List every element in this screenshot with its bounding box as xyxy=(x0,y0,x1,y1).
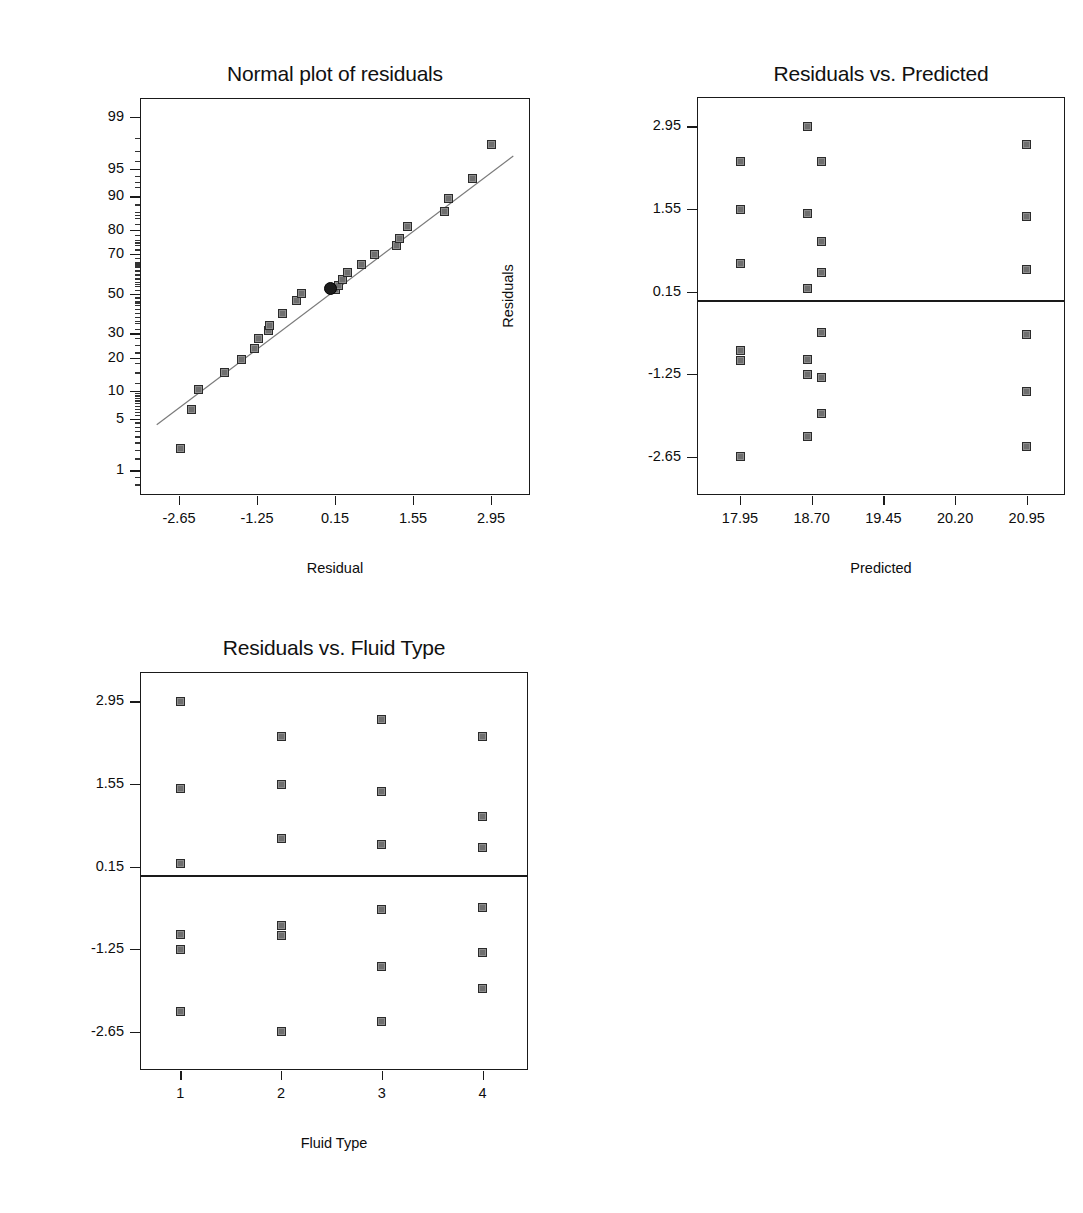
y-minor-tick xyxy=(135,338,140,339)
y-minor-tick xyxy=(135,290,140,291)
y-minor-tick xyxy=(135,431,140,432)
x-axis-title: Residual xyxy=(80,560,590,576)
y-tick xyxy=(130,470,140,471)
y-tick xyxy=(130,294,140,295)
y-minor-tick xyxy=(135,352,140,353)
data-point xyxy=(277,1027,286,1036)
data-point xyxy=(736,356,745,365)
y-minor-tick xyxy=(135,282,140,283)
x-tick xyxy=(883,496,884,505)
y-minor-tick xyxy=(135,286,140,287)
y-tick xyxy=(687,126,697,127)
y-minor-tick xyxy=(135,138,140,139)
data-point xyxy=(444,194,453,203)
data-point xyxy=(377,905,386,914)
data-point xyxy=(817,157,826,166)
y-tick-label: 2.95 xyxy=(589,117,681,133)
y-minor-tick xyxy=(135,442,140,443)
data-point xyxy=(278,309,287,318)
data-point xyxy=(176,1007,185,1016)
y-minor-tick xyxy=(135,450,140,451)
x-tick xyxy=(812,496,813,505)
y-minor-tick xyxy=(135,161,140,162)
data-point xyxy=(817,409,826,418)
data-point xyxy=(478,984,487,993)
y-minor-tick xyxy=(135,305,140,306)
y-minor-tick xyxy=(135,313,140,314)
data-point xyxy=(403,222,412,231)
y-tick-label: 0.15 xyxy=(589,283,681,299)
y-minor-tick xyxy=(135,403,140,404)
y-minor-tick xyxy=(135,218,140,219)
data-point xyxy=(395,234,404,243)
y-minor-tick xyxy=(135,278,140,279)
x-axis-title: Fluid Type xyxy=(80,1135,588,1151)
y-tick xyxy=(130,867,140,868)
plot-frame xyxy=(140,672,528,1070)
y-minor-tick xyxy=(135,266,140,267)
x-tick xyxy=(1027,496,1028,505)
data-point xyxy=(370,250,379,259)
data-point xyxy=(176,697,185,706)
data-point xyxy=(265,321,274,330)
data-point xyxy=(194,385,203,394)
y-tick xyxy=(687,292,697,293)
x-tick-label: 0.15 xyxy=(290,510,380,526)
y-tick xyxy=(130,169,140,170)
y-minor-tick xyxy=(135,427,140,428)
y-minor-tick xyxy=(135,151,140,152)
y-tick xyxy=(130,230,140,231)
x-tick-label: 1 xyxy=(135,1085,225,1101)
data-point xyxy=(176,444,185,453)
data-point xyxy=(478,843,487,852)
y-minor-tick xyxy=(135,212,140,213)
data-point xyxy=(277,732,286,741)
data-point xyxy=(277,931,286,940)
data-point xyxy=(1022,212,1031,221)
y-minor-tick xyxy=(135,262,140,263)
data-point xyxy=(176,930,185,939)
plot-frame xyxy=(140,98,530,495)
y-minor-tick xyxy=(135,395,140,396)
y-minor-tick xyxy=(135,242,140,243)
y-minor-tick xyxy=(135,406,140,407)
data-point xyxy=(736,157,745,166)
data-point xyxy=(817,237,826,246)
y-minor-tick xyxy=(135,258,140,259)
data-point xyxy=(277,834,286,843)
x-tick-label: -2.65 xyxy=(134,510,224,526)
y-tick-label: 99 xyxy=(32,108,124,124)
x-tick-label: 1.55 xyxy=(368,510,458,526)
y-tick-label: 10 xyxy=(32,382,124,398)
data-point xyxy=(176,859,185,868)
x-tick xyxy=(257,496,258,505)
y-axis-title: Residuals xyxy=(500,166,516,426)
data-point xyxy=(478,812,487,821)
data-point xyxy=(736,205,745,214)
y-minor-tick xyxy=(135,345,140,346)
y-minor-tick xyxy=(135,363,140,364)
data-point xyxy=(478,903,487,912)
y-minor-tick xyxy=(135,301,140,302)
y-minor-tick xyxy=(135,270,140,271)
data-point xyxy=(1022,140,1031,149)
y-tick-label: 1 xyxy=(32,461,124,477)
y-tick-label: -1.25 xyxy=(589,365,681,381)
data-point xyxy=(817,373,826,382)
y-tick xyxy=(130,358,140,359)
data-point xyxy=(176,784,185,793)
y-minor-tick xyxy=(135,245,140,246)
y-minor-tick xyxy=(135,409,140,410)
data-point xyxy=(1022,330,1031,339)
y-minor-tick xyxy=(135,321,140,322)
y-tick xyxy=(687,457,697,458)
y-tick xyxy=(130,701,140,702)
y-tick xyxy=(130,254,140,255)
data-point xyxy=(803,432,812,441)
data-point xyxy=(736,452,745,461)
y-minor-tick xyxy=(135,383,140,384)
y-minor-tick xyxy=(135,484,140,485)
y-minor-tick xyxy=(135,297,140,298)
x-tick-label: -1.25 xyxy=(212,510,302,526)
zero-reference-line xyxy=(697,300,1065,301)
